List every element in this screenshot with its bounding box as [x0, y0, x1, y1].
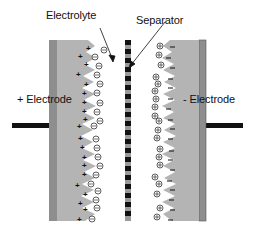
positive-lead [12, 123, 50, 128]
negative-lead [206, 123, 243, 128]
separator-label: Separator [136, 14, 183, 26]
negative-ions [88, 47, 107, 222]
svg-text:+: + [75, 181, 80, 190]
svg-text:+: + [77, 215, 82, 224]
positive-electrode-label: + Electrode [17, 93, 72, 105]
svg-text:+: + [84, 80, 89, 89]
svg-text:+: + [77, 122, 82, 131]
svg-text:+: + [78, 134, 83, 143]
svg-text:+: + [82, 89, 87, 98]
svg-text:+: + [82, 170, 87, 179]
svg-text:+: + [78, 52, 83, 61]
svg-text:+: + [82, 161, 87, 170]
negative-electrode [162, 40, 206, 221]
svg-text:+: + [83, 205, 88, 214]
svg-text:+: + [83, 115, 88, 124]
svg-text:+: + [80, 143, 85, 152]
callout-arrows [100, 22, 165, 68]
svg-text:+: + [82, 98, 87, 107]
diagram-canvas: +++ +++ +++ +++ +++ +++ ++ [0, 0, 253, 234]
svg-text:+: + [84, 60, 89, 69]
positive-electrode [49, 40, 96, 221]
svg-text:+: + [83, 190, 88, 199]
svg-text:+: + [76, 70, 81, 79]
negative-electrode-label: - Electrode [183, 93, 235, 105]
capacitor-diagram: +++ +++ +++ +++ +++ +++ ++ [0, 0, 253, 234]
svg-text:+: + [86, 44, 91, 53]
electrolyte-label: Electrolyte [46, 9, 96, 21]
